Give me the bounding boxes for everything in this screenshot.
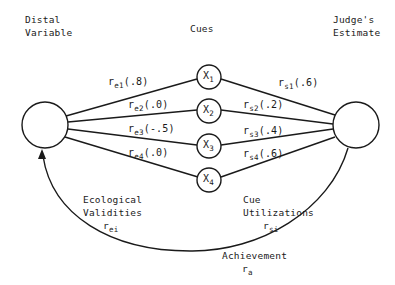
edge-label-s1: rs1(.6) — [278, 76, 319, 90]
distal-variable-header: DistalVariable — [25, 13, 72, 39]
judge-estimate-node — [333, 102, 379, 148]
arrowhead-icon — [38, 149, 46, 159]
edge-label-e2: re2(.0) — [128, 98, 169, 112]
ecological-validities-label: Ecological Validities rei — [83, 193, 142, 233]
edge-label-s2: rs2(.2) — [243, 98, 284, 112]
cue-utilizations-label: Cue Utilizations rsi — [243, 193, 314, 233]
edge-label-s3: rs3(.4) — [243, 124, 284, 138]
cue-label-4: X4 — [203, 172, 214, 186]
cue-label-3: X3 — [203, 138, 214, 152]
lens-model-diagram — [0, 0, 395, 285]
edge-label-e3: re3(-.5) — [128, 122, 175, 136]
cues-header: Cues — [190, 22, 214, 35]
distal-variable-node — [22, 102, 68, 148]
edge-label-e1: re1(.8) — [108, 75, 149, 89]
judge-estimate-header: Judge'sEstimate — [333, 13, 380, 39]
cue-label-2: X2 — [203, 103, 214, 117]
achievement-label: Achievement ra — [222, 249, 287, 276]
cue-label-1: X1 — [203, 69, 214, 83]
edge-label-e4: re4(.0) — [128, 146, 169, 160]
edge-s2 — [221, 110, 333, 124]
edge-label-s4: rs4(.6) — [243, 147, 284, 161]
